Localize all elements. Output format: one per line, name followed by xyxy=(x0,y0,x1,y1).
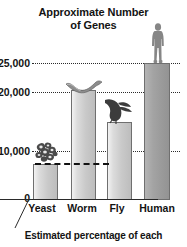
fly-icon xyxy=(102,98,134,124)
bar-fly xyxy=(107,122,132,200)
x-axis-labels: Yeast Worm Fly Human xyxy=(0,202,187,218)
x-tick-label-worm: Worm xyxy=(61,202,103,214)
x-tick-label-fly: Fly xyxy=(101,202,133,214)
chart-caption: Estimated percentage of each xyxy=(0,230,187,241)
yeast-cells-icon xyxy=(34,141,58,164)
plot-area xyxy=(32,40,180,200)
bar-human xyxy=(144,63,170,200)
chart-title-line-2: of Genes xyxy=(0,19,187,32)
bar-yeast xyxy=(33,164,58,200)
y-tick-label-10000: 10,000 xyxy=(0,145,30,157)
gene-count-bar-chart: Approximate Number of Genes 25,000 20,00… xyxy=(0,0,187,247)
y-axis-labels: 25,000 20,000 10,000 0 xyxy=(0,40,30,200)
chart-title-line-1: Approximate Number xyxy=(0,6,187,19)
x-tick-label-human: Human xyxy=(132,202,182,214)
shared-genes-dashed-line xyxy=(35,163,109,165)
x-tick-label-yeast: Yeast xyxy=(22,202,62,214)
y-tick-label-20000: 20,000 xyxy=(0,86,30,98)
bar-worm xyxy=(71,90,96,200)
chart-title: Approximate Number of Genes xyxy=(0,6,187,32)
y-tick-label-25000: 25,000 xyxy=(0,57,30,69)
